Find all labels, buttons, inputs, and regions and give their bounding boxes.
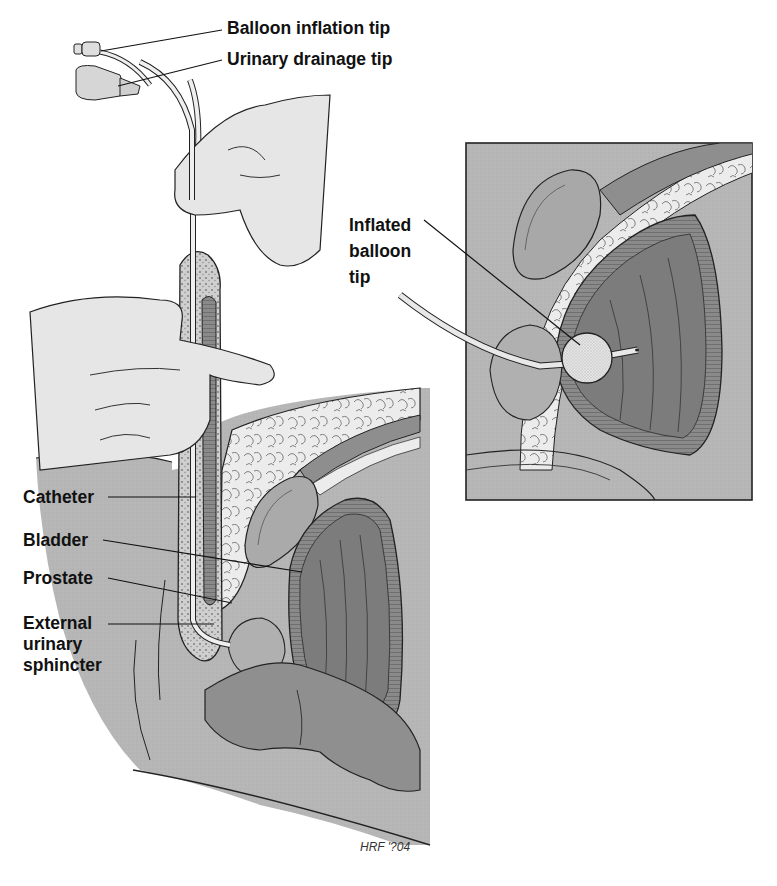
label-balloon-inflation-tip: Balloon inflation tip	[227, 18, 390, 39]
label-external-urinary-sphincter-line2: urinary	[23, 634, 102, 655]
label-inflated-balloon-tip-line2: balloon	[349, 238, 411, 264]
label-external-urinary-sphincter-line3: sphincter	[23, 655, 102, 676]
inset-panel	[400, 143, 760, 500]
label-inflated-balloon-tip-line1: Inflated	[349, 212, 411, 238]
label-prostate: Prostate	[23, 568, 93, 589]
catheter-insertion-illustration	[0, 0, 777, 886]
label-catheter: Catheter	[23, 487, 94, 508]
main-section-view	[30, 30, 430, 845]
artist-signature: HRF '?04	[360, 840, 410, 854]
label-external-urinary-sphincter: External urinary sphincter	[23, 613, 102, 676]
illustration-canvas	[0, 0, 777, 886]
label-bladder: Bladder	[23, 530, 88, 551]
label-inflated-balloon-tip: Inflated balloon tip	[349, 212, 411, 290]
label-urinary-drainage-tip: Urinary drainage tip	[227, 49, 392, 70]
inflated-balloon	[562, 333, 612, 383]
label-inflated-balloon-tip-line3: tip	[349, 264, 411, 290]
balloon-inflation-tip-shape	[74, 42, 100, 56]
label-external-urinary-sphincter-line1: External	[23, 613, 102, 634]
